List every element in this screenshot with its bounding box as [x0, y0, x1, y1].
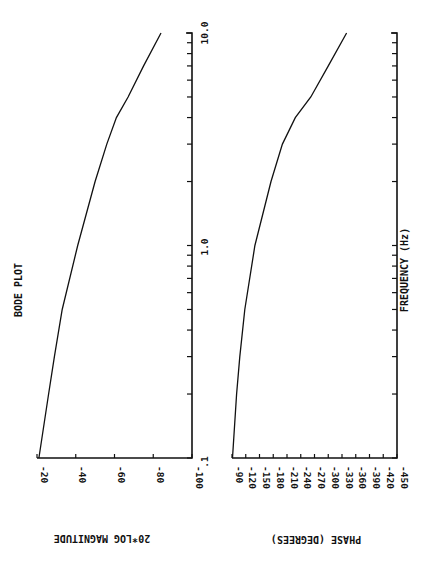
- phase-panel: [232, 33, 397, 458]
- tick-label: -40: [77, 466, 88, 483]
- freq-label-high: 10.0: [199, 21, 210, 44]
- tick-label: -360: [357, 466, 368, 489]
- bode-plot-canvas: BODE PLOT 20*LOG MAGNITUDE PHASE (DEGREE…: [0, 0, 425, 564]
- tick-label: -330: [344, 466, 355, 489]
- tick-label: -210: [289, 466, 300, 489]
- magnitude-panel: [37, 33, 192, 458]
- tick-label: -80: [155, 466, 166, 483]
- tick-label: -240: [302, 466, 313, 489]
- tick-label: -120: [247, 466, 258, 489]
- phase-tick-labels: -90-120-150-180-210-240-270-300-330-360-…: [234, 466, 410, 489]
- tick-label: -300: [330, 466, 341, 489]
- tick-label: -20: [39, 466, 50, 483]
- tick-label: -150: [261, 466, 272, 489]
- phase-axes: [232, 33, 397, 458]
- phase-frequency-ticks: [392, 33, 397, 458]
- chart-title: BODE PLOT: [13, 263, 24, 317]
- tick-label: -420: [385, 466, 396, 489]
- tick-label: -100: [194, 466, 205, 489]
- magnitude-tick-labels: -20-40-60-80-100: [39, 466, 205, 489]
- freq-label-mid: 1.0: [199, 238, 210, 255]
- frequency-axis-label: FREQUENCY (Hz): [399, 228, 410, 312]
- phase-curve: [233, 33, 347, 458]
- phase-axis-label: PHASE (DEGREES): [271, 534, 361, 545]
- tick-label: -60: [116, 466, 127, 483]
- magnitude-axes: [37, 33, 192, 458]
- tick-label: -450: [399, 466, 410, 489]
- magnitude-frequency-ticks: [187, 33, 192, 458]
- magnitude-axis-label: 20*LOG MAGNITUDE: [54, 533, 150, 544]
- tick-label: -180: [275, 466, 286, 489]
- tick-label: -270: [316, 466, 327, 489]
- bode-plot-figure: BODE PLOT 20*LOG MAGNITUDE PHASE (DEGREE…: [0, 0, 425, 564]
- magnitude-curve: [39, 33, 161, 458]
- tick-label: -90: [234, 466, 245, 483]
- tick-label: -390: [371, 466, 382, 489]
